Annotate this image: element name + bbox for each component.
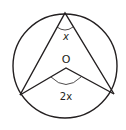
circle-theorem-diagram: x O 2x xyxy=(0,0,126,130)
label-centre-o: O xyxy=(62,53,71,66)
angle-arc-circumference xyxy=(57,27,73,30)
label-x: x xyxy=(62,31,69,42)
angle-arc-centre xyxy=(51,77,81,85)
label-2x: 2x xyxy=(60,91,72,102)
